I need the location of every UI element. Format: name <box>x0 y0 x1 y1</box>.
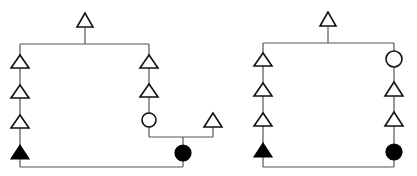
open-circle-icon <box>142 113 156 127</box>
filled-triangle-icon <box>254 143 272 157</box>
open-triangle-icon <box>254 83 272 96</box>
open-triangle-icon <box>11 55 29 68</box>
founder-open-triangle-icon <box>77 13 93 27</box>
open-triangle-icon <box>385 82 403 96</box>
filled-circle-icon <box>386 144 402 160</box>
open-triangle-icon <box>11 85 29 98</box>
open-triangle-icon <box>385 112 403 126</box>
left-pedigree <box>11 13 222 167</box>
filled-circle-icon <box>175 145 191 161</box>
filled-triangle-icon <box>11 145 29 159</box>
founder-open-triangle-icon <box>320 12 336 26</box>
open-circle-icon <box>386 51 402 67</box>
open-triangle-icon <box>140 84 158 97</box>
open-triangle-icon <box>254 53 272 66</box>
pedigree-figure <box>0 0 417 176</box>
mate-open-triangle-icon <box>204 113 222 127</box>
open-triangle-icon <box>254 113 272 126</box>
right-pedigree <box>254 12 403 167</box>
open-triangle-icon <box>140 55 158 68</box>
open-triangle-icon <box>11 115 29 128</box>
